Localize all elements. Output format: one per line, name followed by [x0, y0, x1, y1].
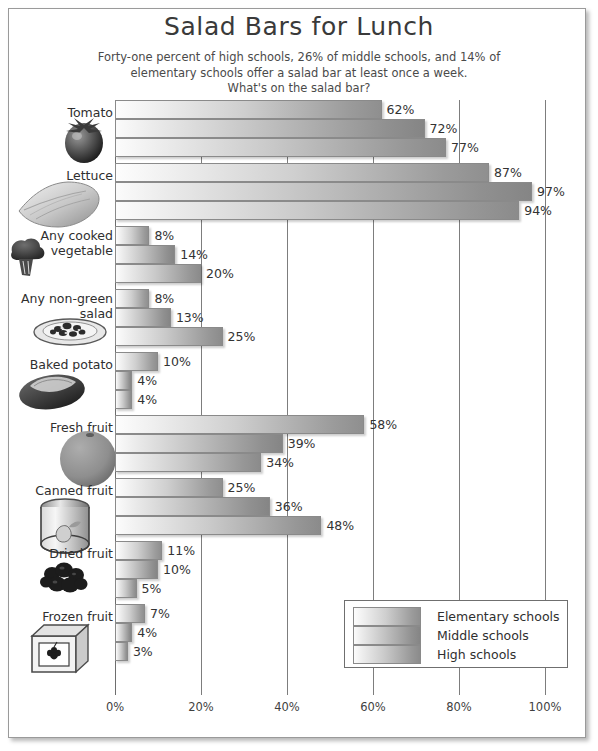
bar: [115, 245, 175, 264]
x-tick-label: 0%: [106, 700, 124, 714]
bar: [115, 478, 223, 497]
x-tick-label: 40%: [274, 700, 300, 714]
bar: [115, 308, 171, 327]
legend-label: Middle schools: [437, 626, 529, 645]
category-axis: Tomato Lettuce Any cookedvegetable: [0, 100, 113, 695]
bar: [115, 434, 283, 453]
bar: [115, 541, 162, 560]
bar: [115, 642, 128, 661]
bar: [115, 163, 489, 182]
bar: [115, 289, 149, 308]
bar: [115, 390, 132, 409]
bar-value-label: 5%: [142, 579, 162, 598]
bar: [115, 579, 137, 598]
subtitle-line-1: Forty-one percent of high schools, 26% o…: [63, 50, 535, 66]
bar-value-label: 11%: [167, 541, 195, 560]
subtitle-line-3: What's on the salad bar?: [63, 81, 535, 97]
bar-value-label: 72%: [430, 119, 458, 138]
legend-swatch: [353, 607, 421, 626]
bar: [115, 100, 382, 119]
bar-value-label: 10%: [163, 352, 191, 371]
chart-subtitle: Forty-one percent of high schools, 26% o…: [63, 50, 535, 97]
legend-label: Elementary schools: [437, 607, 560, 626]
lettuce-icon: [16, 177, 102, 235]
chart-legend: Elementary schoolsMiddle schoolsHigh sch…: [344, 600, 568, 668]
bar-value-label: 48%: [326, 516, 354, 535]
bar-value-label: 58%: [369, 415, 397, 434]
bar-value-label: 4%: [137, 390, 157, 409]
bar: [115, 623, 132, 642]
salad-plate-icon: [32, 313, 108, 351]
category-label-line: Any non-green: [1, 291, 113, 306]
bar: [115, 415, 364, 434]
bar-value-label: 10%: [163, 560, 191, 579]
bar-value-label: 97%: [537, 182, 565, 201]
bar-value-label: 3%: [133, 642, 153, 661]
legend-swatch: [353, 626, 421, 645]
frozen-fruit-box-icon: [26, 620, 94, 680]
subtitle-line-2: elementary schools offer a salad bar at …: [63, 66, 535, 82]
bar-value-label: 77%: [451, 138, 479, 157]
x-tick-label: 80%: [446, 700, 472, 714]
bar: [115, 201, 519, 220]
x-tick-label: 20%: [188, 700, 214, 714]
bar: [115, 371, 132, 390]
legend-swatch: [353, 645, 421, 664]
bar-value-label: 94%: [524, 201, 552, 220]
bar-value-label: 4%: [137, 623, 157, 642]
bar-value-label: 34%: [266, 453, 294, 472]
bar: [115, 516, 321, 535]
bar-value-label: 62%: [387, 100, 415, 119]
bar: [115, 560, 158, 579]
bar-value-label: 39%: [288, 434, 316, 453]
bar: [115, 182, 532, 201]
x-tick-label: 100%: [529, 700, 562, 714]
bar: [115, 226, 149, 245]
bar-value-label: 13%: [176, 308, 204, 327]
bar-value-label: 14%: [180, 245, 208, 264]
bar: [115, 264, 201, 283]
bar: [115, 119, 425, 138]
bar: [115, 327, 223, 346]
bar: [115, 604, 145, 623]
bar-value-label: 36%: [275, 497, 303, 516]
bar-value-label: 20%: [206, 264, 234, 283]
tomato-icon: [58, 112, 110, 170]
bar: [115, 138, 446, 157]
broccoli-icon: [6, 236, 50, 282]
chart-title: Salad Bars for Lunch: [0, 12, 598, 41]
bar-value-label: 4%: [137, 371, 157, 390]
dried-fruit-icon: [38, 559, 90, 603]
bar: [115, 352, 158, 371]
bar-value-label: 7%: [150, 604, 170, 623]
baked-potato-icon: [16, 366, 88, 416]
bar-value-label: 8%: [154, 289, 174, 308]
bar-value-label: 87%: [494, 163, 522, 182]
bar-value-label: 25%: [228, 327, 256, 346]
bar: [115, 453, 261, 472]
bar: [115, 497, 270, 516]
chart-page: Salad Bars for Lunch Forty-one percent o…: [0, 0, 598, 751]
x-tick-label: 60%: [360, 700, 386, 714]
bar-value-label: 25%: [228, 478, 256, 497]
legend-label: High schools: [437, 645, 516, 664]
bar-value-label: 8%: [154, 226, 174, 245]
